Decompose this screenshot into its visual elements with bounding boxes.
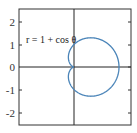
svg-text:-1: -1 [6, 84, 15, 96]
svg-text:2: 2 [10, 16, 16, 28]
y-tick-labels: 2 1 0 -1 -2 [6, 16, 16, 119]
svg-text:-2: -2 [6, 107, 15, 119]
svg-text:0: 0 [10, 61, 16, 73]
polar-plot: 2 1 0 -1 -2 r = 1 + cos θ [0, 0, 137, 133]
equation-label: r = 1 + cos θ [26, 34, 76, 45]
svg-text:1: 1 [10, 39, 16, 51]
